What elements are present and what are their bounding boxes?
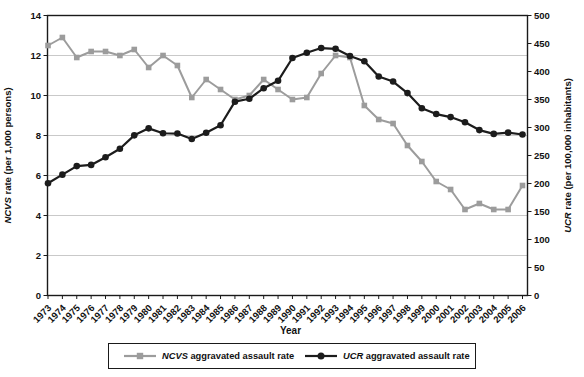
series-ucr <box>45 45 526 187</box>
assault-rates-figure: 0246810121405010015020025030035040045050… <box>0 0 584 377</box>
svg-text:50: 50 <box>534 262 545 273</box>
svg-text:150: 150 <box>534 206 550 217</box>
svg-text:6: 6 <box>36 170 41 181</box>
legend-item-ncvs: NCVS aggravated assault rate <box>162 351 294 361</box>
svg-text:100: 100 <box>534 234 550 245</box>
svg-text:250: 250 <box>534 150 550 161</box>
svg-text:4: 4 <box>36 210 42 221</box>
svg-text:8: 8 <box>36 130 41 141</box>
svg-text:450: 450 <box>534 38 550 49</box>
right-axis-title: UCR rate (per 100,000 inhabitants) <box>562 78 573 233</box>
left-axis-ticks: 02468101214 <box>30 10 47 301</box>
x-axis-title: Year <box>280 325 301 336</box>
svg-text:12: 12 <box>30 50 41 61</box>
svg-text:350: 350 <box>534 94 550 105</box>
svg-text:0: 0 <box>534 290 539 301</box>
svg-text:200: 200 <box>534 178 550 189</box>
svg-text:400: 400 <box>534 66 550 77</box>
right-axis-ticks: 050100150200250300350400450500 <box>528 10 550 301</box>
svg-text:2: 2 <box>36 250 41 261</box>
svg-text:14: 14 <box>30 10 41 21</box>
legend-item-ucr: UCR aggravated assault rate <box>343 351 470 361</box>
svg-text:300: 300 <box>534 122 550 133</box>
x-axis-ticks: 1973197419751976197719781979198019811982… <box>31 296 528 325</box>
svg-text:500: 500 <box>534 10 550 21</box>
assault-rates-chart: 0246810121405010015020025030035040045050… <box>0 0 584 377</box>
left-axis-title: NCVS rate (per 1,000 persons) <box>2 87 13 223</box>
svg-text:0: 0 <box>36 290 41 301</box>
legend: NCVS aggravated assault rateUCR aggravat… <box>109 344 476 369</box>
series-ncvs <box>45 35 525 213</box>
svg-text:10: 10 <box>30 90 41 101</box>
gridlines <box>48 56 528 256</box>
